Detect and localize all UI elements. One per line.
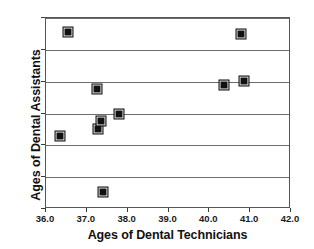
data-point bbox=[93, 84, 102, 93]
data-point bbox=[240, 77, 249, 86]
data-point bbox=[114, 109, 123, 118]
x-tick-mark bbox=[208, 208, 209, 212]
scatter-plot-figure: 30.031.032.033.034.035.036.0 36.037.038.… bbox=[0, 0, 314, 249]
x-tick-label: 41.0 bbox=[240, 213, 259, 224]
x-tick-mark bbox=[290, 208, 291, 212]
x-tick-label: 40.0 bbox=[199, 213, 218, 224]
data-point bbox=[64, 27, 73, 36]
x-tick-mark bbox=[249, 208, 250, 212]
plot-area bbox=[45, 17, 290, 208]
data-point bbox=[94, 125, 103, 134]
data-point bbox=[219, 80, 228, 89]
data-point bbox=[97, 116, 106, 125]
gridline-y-5 bbox=[46, 50, 289, 51]
gridline-y-1 bbox=[46, 177, 289, 178]
data-point bbox=[99, 188, 108, 197]
data-point bbox=[237, 29, 246, 38]
gridline-y-6 bbox=[46, 18, 289, 19]
x-axis-title: Ages of Dental Technicians bbox=[45, 228, 290, 242]
x-tick-label: 42.0 bbox=[281, 213, 300, 224]
gridline-y-3 bbox=[46, 114, 289, 115]
y-axis-title: Ages of Dental Assistants bbox=[29, 35, 43, 215]
x-tick-mark bbox=[168, 208, 169, 212]
x-tick-label: 37.0 bbox=[77, 213, 96, 224]
x-tick-mark bbox=[45, 208, 46, 212]
x-tick-label: 39.0 bbox=[158, 213, 177, 224]
x-tick-mark bbox=[86, 208, 87, 212]
gridline-y-2 bbox=[46, 145, 289, 146]
gridline-y-4 bbox=[46, 82, 289, 83]
x-tick-label: 38.0 bbox=[117, 213, 136, 224]
data-point bbox=[56, 131, 65, 140]
y-tick-mark bbox=[41, 17, 45, 18]
x-tick-mark bbox=[127, 208, 128, 212]
